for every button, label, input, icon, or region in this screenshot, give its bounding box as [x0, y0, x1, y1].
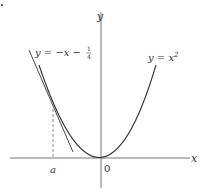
tangent-frac-den: 4 [87, 53, 91, 60]
tangent-label: y = −x − [34, 47, 81, 58]
corner-mark [1, 4, 3, 6]
y-axis-label: y [96, 10, 104, 23]
point-a-label: a [50, 164, 56, 175]
parabola-curve [39, 65, 156, 158]
origin-label: 0 [104, 163, 110, 174]
x-axis-label: x [191, 152, 198, 165]
tangent-frac-num: 1 [87, 45, 91, 52]
diagram-canvas: y x 0 a y = x2 y = −x − 1 4 [0, 0, 205, 195]
parabola-label: y = x2 [147, 51, 179, 63]
tangent-line [29, 50, 73, 152]
